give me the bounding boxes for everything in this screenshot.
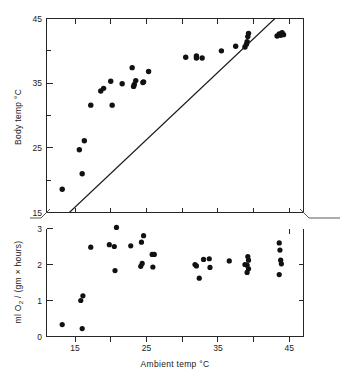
data-point [108,79,113,84]
data-point [139,240,144,245]
data-point [197,276,202,281]
data-point [88,245,93,250]
top-panel: 45 35 25 15 Body temp °C [13,14,340,219]
data-point [207,256,212,261]
data-point [60,187,65,192]
data-point [128,243,133,248]
bottom-panel-x-ticks [75,337,289,342]
bottom-panel-frame [47,229,304,337]
bottom-panel: 3 2 1 0 15 25 35 45 ml O2 / (gm × hours)… [13,224,304,370]
data-point [233,44,238,49]
bottom-panel-right-ticks [299,265,304,301]
xtick-label-45: 45 [285,343,295,353]
figure-container: 45 35 25 15 Body temp °C [0,0,356,373]
top-ytick-label-25: 25 [33,143,43,153]
data-point [207,265,212,270]
data-point [80,326,85,331]
scatter-plot-figure: 45 35 25 15 Body temp °C [0,0,356,373]
xtick-label-25: 25 [142,343,152,353]
bottom-ytick-label-1: 1 [37,296,42,306]
xtick-label-35: 35 [213,343,223,353]
y-axis-title-prefix: ml O [13,304,23,323]
data-point [141,233,146,238]
data-point [112,244,117,249]
data-point [227,258,232,263]
top-ytick-label-15: 15 [33,208,43,218]
data-point [88,102,93,107]
top-panel-data-points [60,30,287,192]
data-point [152,252,157,257]
data-point [107,242,112,247]
top-panel-frame [47,19,304,213]
data-point [114,225,119,230]
top-panel-bottom-ticks [75,208,289,213]
data-point [219,48,224,53]
axis-break-right-icon [300,209,340,218]
data-point [199,55,204,60]
top-ytick-label-35: 35 [33,78,43,88]
data-point [140,261,145,266]
data-point [77,147,82,152]
data-point [277,248,282,253]
data-point [245,270,250,275]
bottom-ytick-label-0: 0 [37,332,42,342]
top-panel-y-ticks [47,19,53,213]
x-axis-title: Ambient temp °C [141,359,210,369]
data-point [194,55,199,60]
bottom-ytick-label-3: 3 [37,224,42,234]
data-point [277,272,282,277]
data-point [246,31,251,36]
data-point [281,32,286,37]
data-point [60,322,65,327]
data-point [279,261,284,266]
data-point [79,171,84,176]
data-point [119,81,124,86]
data-point [201,257,206,262]
data-point [183,55,188,60]
data-point [146,69,151,74]
xtick-label-15: 15 [70,343,80,353]
data-point [101,86,106,91]
data-point [246,258,251,263]
data-point [112,268,117,273]
bottom-ytick-label-2: 2 [37,260,42,270]
bottom-panel-data-points [60,225,284,331]
bottom-panel-y-ticks [47,229,53,337]
data-point [277,240,282,245]
top-panel-y-axis-title: Body temp °C [13,89,23,145]
data-point [129,65,134,70]
top-panel-top-ticks [75,19,289,25]
bottom-panel-y-axis-title: ml O2 / (gm × hours) [13,241,24,324]
data-point [141,79,146,84]
y-axis-title-suffix: / (gm × hours) [13,241,23,301]
top-ytick-label-45: 45 [33,14,43,24]
data-point [244,39,249,44]
data-point [133,78,138,83]
data-point [150,264,155,269]
data-point [109,102,114,107]
data-point [82,138,87,143]
data-point [194,263,199,268]
data-point [78,298,83,303]
data-point [80,293,85,298]
